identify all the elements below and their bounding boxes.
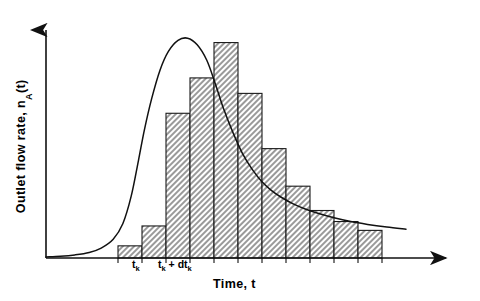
bar-b10	[334, 222, 358, 258]
bar-b4	[190, 78, 214, 258]
chart-svg	[0, 0, 480, 301]
bar-b8	[286, 186, 310, 258]
bar-b5	[214, 43, 238, 258]
bar-b1	[118, 246, 142, 258]
bar-b7	[262, 149, 286, 258]
bars-group	[118, 43, 382, 258]
bar-b11	[358, 230, 382, 258]
figure-page: Outlet flow rate, nA(t) Time, t tk tk + …	[0, 0, 480, 301]
bar-b6	[238, 93, 262, 258]
bar-b2	[142, 226, 166, 258]
bar-b3	[166, 113, 190, 258]
